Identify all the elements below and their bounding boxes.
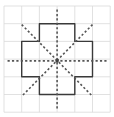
center-dot bbox=[55, 59, 59, 63]
center-point bbox=[55, 59, 59, 63]
diagram-canvas bbox=[0, 0, 114, 117]
symmetry-diagram bbox=[0, 0, 114, 117]
